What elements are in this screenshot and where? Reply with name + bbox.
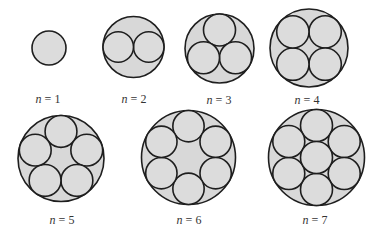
label-n-5: n = 5 <box>50 213 75 228</box>
label-n-6: n = 6 <box>177 213 202 228</box>
inner-circle <box>301 174 333 206</box>
inner-circle <box>328 158 360 190</box>
inner-circle <box>277 48 309 80</box>
inner-circle <box>220 42 252 74</box>
label-value: = 7 <box>309 213 328 227</box>
label-n-1: n = 1 <box>36 92 61 107</box>
label-value: = 5 <box>56 213 75 227</box>
inner-circle <box>134 32 165 63</box>
inner-circle <box>200 158 231 189</box>
inner-circle <box>146 158 177 189</box>
packing-n-2 <box>103 17 164 78</box>
inner-circle <box>200 126 231 157</box>
label-n-4: n = 4 <box>295 93 320 108</box>
label-value: = 1 <box>42 92 61 106</box>
inner-circle <box>173 111 204 142</box>
packing-n-6 <box>142 111 236 205</box>
inner-circle <box>273 158 305 190</box>
label-value: = 6 <box>183 213 202 227</box>
inner-circle <box>187 42 219 74</box>
inner-circle <box>19 134 51 166</box>
inner-circle <box>301 142 333 174</box>
label-value: = 3 <box>213 93 232 107</box>
inner-circle <box>146 126 177 157</box>
packing-n-4 <box>270 9 348 87</box>
inner-circle <box>173 173 204 204</box>
packing-n-1 <box>32 31 66 65</box>
inner-circle <box>61 164 93 196</box>
inner-circle <box>301 110 333 142</box>
inner-circle <box>32 31 66 65</box>
packing-n-7 <box>269 110 365 206</box>
inner-circle <box>103 32 134 63</box>
label-n-3: n = 3 <box>207 93 232 108</box>
inner-circle <box>277 16 309 48</box>
label-value: = 2 <box>128 92 147 106</box>
inner-circle <box>203 14 235 46</box>
inner-circle <box>309 16 341 48</box>
circle-packing-figure <box>0 0 378 235</box>
packing-n-3 <box>185 14 254 83</box>
label-value: = 4 <box>301 93 320 107</box>
label-n-7: n = 7 <box>303 213 328 228</box>
inner-circle <box>309 48 341 80</box>
label-n-2: n = 2 <box>122 92 147 107</box>
inner-circle <box>29 164 61 196</box>
inner-circle <box>71 134 103 166</box>
inner-circle <box>328 126 360 158</box>
inner-circle <box>273 126 305 158</box>
packing-n-5 <box>18 115 104 201</box>
